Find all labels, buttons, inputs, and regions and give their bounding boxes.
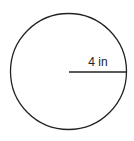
circle-diagram: 4 in — [0, 0, 134, 141]
radius-label: 4 in — [88, 55, 107, 69]
